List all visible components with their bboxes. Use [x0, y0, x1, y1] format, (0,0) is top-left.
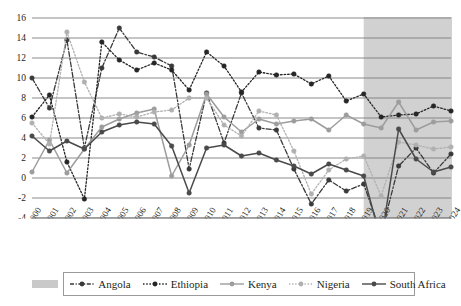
y-tick-label: 4 — [21, 133, 26, 143]
chart-canvas: 1614121086420-2-420002001200220032004200… — [0, 0, 461, 306]
data-point — [344, 168, 349, 173]
legend-item-nigeria[interactable]: Nigeria — [283, 278, 356, 290]
data-point — [274, 128, 279, 133]
y-tick-label: 0 — [21, 173, 26, 183]
data-point — [82, 80, 87, 85]
data-point — [187, 96, 192, 101]
data-point — [239, 154, 244, 159]
data-point — [30, 76, 35, 81]
y-axis-tick-labels: 1614121086420-2-4 — [17, 13, 27, 223]
data-point — [169, 108, 174, 113]
y-tick-label: 16 — [17, 13, 27, 23]
legend-item-label: Nigeria — [317, 278, 350, 290]
data-point — [309, 202, 314, 207]
data-point — [204, 50, 209, 55]
data-point — [30, 115, 35, 120]
data-point — [134, 68, 139, 73]
data-point — [169, 68, 174, 73]
data-point — [222, 64, 227, 69]
data-point — [187, 88, 192, 93]
legend-line-key — [362, 279, 386, 289]
data-point — [30, 134, 35, 139]
data-point — [47, 142, 52, 147]
data-point — [222, 143, 227, 148]
legend-item-ethiopia[interactable]: Ethiopia — [137, 278, 214, 290]
data-point — [274, 158, 279, 163]
legend-line-key — [70, 279, 94, 289]
data-point — [292, 119, 297, 124]
economic-growth-line-chart: 1614121086420-2-420002001200220032004200… — [0, 0, 461, 306]
data-point — [326, 168, 331, 173]
data-point — [309, 172, 314, 177]
data-point — [134, 115, 139, 120]
data-point — [239, 134, 244, 139]
data-point — [82, 197, 87, 202]
data-point — [344, 189, 349, 194]
data-point — [47, 106, 52, 111]
data-point — [396, 100, 401, 105]
data-point — [152, 61, 157, 66]
y-tick-label: 10 — [17, 73, 27, 83]
data-point — [326, 162, 331, 167]
data-point — [449, 145, 454, 150]
data-point — [117, 123, 122, 128]
y-tick-label: 6 — [21, 113, 26, 123]
data-point — [326, 128, 331, 133]
data-point — [449, 109, 454, 114]
data-point — [204, 96, 209, 101]
data-point — [431, 120, 436, 125]
data-point — [431, 170, 436, 175]
y-tick-label: -2 — [18, 193, 26, 203]
data-point — [449, 165, 454, 170]
data-point — [100, 116, 105, 121]
data-point — [361, 174, 366, 179]
data-point — [292, 72, 297, 77]
data-point — [361, 154, 366, 159]
data-point — [239, 90, 244, 95]
data-point — [379, 194, 384, 199]
legend-item-south-africa[interactable]: South Africa — [356, 278, 452, 290]
data-point — [274, 73, 279, 78]
data-point — [379, 115, 384, 120]
data-point — [344, 113, 349, 118]
data-point — [204, 146, 209, 151]
data-point — [65, 160, 70, 165]
legend-line-key — [220, 279, 244, 289]
data-point — [431, 147, 436, 152]
data-point — [309, 192, 314, 197]
data-point — [117, 112, 122, 117]
data-point — [152, 110, 157, 115]
legend-item-angola[interactable]: Angola — [64, 278, 136, 290]
data-point — [100, 125, 105, 130]
data-point — [449, 152, 454, 157]
data-point — [117, 117, 122, 122]
data-point — [65, 139, 70, 144]
data-point — [431, 104, 436, 109]
data-point — [414, 143, 419, 148]
data-point — [65, 171, 70, 176]
data-point — [379, 126, 384, 131]
y-tick-label: 8 — [21, 93, 26, 103]
forecast-shade-swatch — [26, 280, 64, 288]
data-point — [274, 113, 279, 118]
data-point — [414, 112, 419, 117]
below-axis-mask — [0, 219, 461, 249]
data-point — [187, 191, 192, 196]
chart-legend: AngolaEthiopiaKenyaNigeriaSouth Africa — [63, 272, 415, 296]
data-point — [396, 127, 401, 132]
legend-item-kenya[interactable]: Kenya — [214, 278, 283, 290]
data-point — [222, 115, 227, 120]
data-point — [257, 151, 262, 156]
data-point — [187, 143, 192, 148]
y-tick-label: 12 — [17, 53, 27, 63]
data-point — [309, 117, 314, 122]
data-point — [169, 144, 174, 149]
data-point — [117, 26, 122, 31]
forecast-shade-swatch-box — [32, 280, 58, 288]
data-point — [326, 178, 331, 183]
legend-item-label: Angola — [98, 278, 130, 290]
y-tick-label: 14 — [17, 33, 27, 43]
data-point — [361, 122, 366, 127]
data-point — [396, 164, 401, 169]
data-point — [134, 50, 139, 55]
